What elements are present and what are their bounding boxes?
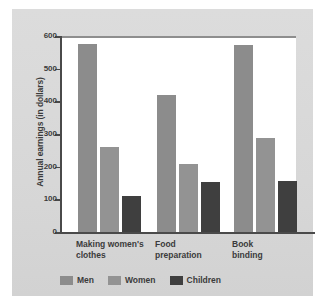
y-tick-label: 600 <box>44 31 57 40</box>
bar-men-group-3 <box>234 45 253 234</box>
plot-area <box>60 36 296 234</box>
legend-swatch-men <box>60 276 73 285</box>
bar-men-group-1 <box>78 44 97 234</box>
x-category-label-1: Making women's clothes <box>76 239 144 261</box>
x-category-label-2: Food preparation <box>155 239 202 261</box>
y-tick-label: 500 <box>44 64 57 73</box>
legend-swatch-children <box>170 276 183 285</box>
bars-layer <box>60 38 296 234</box>
legend-label-men: Men <box>77 275 94 285</box>
y-axis-line <box>60 36 62 234</box>
x-axis-line <box>60 232 315 234</box>
chart-panel: Annual earnings (in dollars) 60050040030… <box>12 9 313 296</box>
bar-children-group-1 <box>122 196 141 234</box>
bar-women-group-3 <box>256 138 275 234</box>
bar-women-group-1 <box>100 147 119 234</box>
chart-legend: MenWomenChildren <box>60 275 221 285</box>
bar-men-group-2 <box>157 95 176 234</box>
y-tick-label: 100 <box>44 194 57 203</box>
y-tick-label: 300 <box>44 129 57 138</box>
legend-item-men: Men <box>60 275 94 285</box>
bar-children-group-3 <box>278 181 297 234</box>
chart-screenshot: Annual earnings (in dollars) 60050040030… <box>0 0 325 305</box>
y-tick-label: 200 <box>44 162 57 171</box>
legend-label-children: Children <box>187 275 221 285</box>
x-category-label-3: Book binding <box>232 239 263 261</box>
legend-item-children: Children <box>170 275 221 285</box>
bar-women-group-2 <box>179 164 198 234</box>
bar-children-group-2 <box>201 182 220 234</box>
legend-swatch-women <box>108 276 121 285</box>
legend-label-women: Women <box>125 275 156 285</box>
y-tick-label: 400 <box>44 96 57 105</box>
legend-item-women: Women <box>108 275 156 285</box>
y-tick-label: 0 <box>53 227 57 236</box>
